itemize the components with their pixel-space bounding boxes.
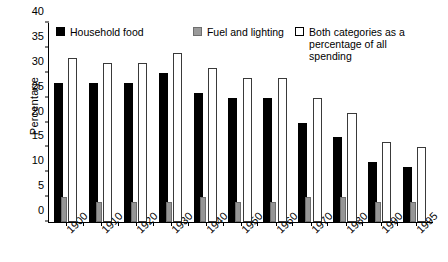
bar-fuel-and-lighting [131, 202, 137, 222]
bar-fuel-and-lighting [340, 197, 346, 222]
bar-both-categories [138, 63, 147, 222]
bar-both-categories [243, 78, 252, 222]
plot-area: 0510152025303540 19001910192019301940195… [48, 23, 433, 223]
bar-group: 1995 [398, 23, 433, 222]
y-tick-label: 15 [32, 129, 49, 141]
bar-fuel-and-lighting [235, 202, 241, 222]
y-tick-label: 35 [32, 30, 49, 42]
y-tick-label: 25 [32, 80, 49, 92]
bar-group: 1910 [84, 23, 119, 222]
bars-wrap: 1910 [84, 23, 119, 222]
bar-household-food [124, 83, 133, 222]
y-tick-label: 20 [32, 105, 49, 117]
bar-fuel-and-lighting [375, 202, 381, 222]
bar-both-categories [173, 53, 182, 222]
bars-wrap: 1960 [258, 23, 293, 222]
bar-fuel-and-lighting [200, 197, 206, 222]
y-tick-label: 0 [38, 204, 49, 216]
bar-household-food [159, 73, 168, 222]
bar-fuel-and-lighting [305, 197, 311, 222]
bar-group: 1900 [49, 23, 84, 222]
bars-wrap: 1980 [328, 23, 363, 222]
bar-both-categories [417, 147, 426, 222]
bar-fuel-and-lighting [410, 202, 416, 222]
bar-fuel-and-lighting [166, 202, 172, 222]
bar-group: 1990 [363, 23, 398, 222]
bar-group: 1940 [189, 23, 224, 222]
bar-both-categories [313, 98, 322, 222]
bar-fuel-and-lighting [61, 197, 67, 222]
bar-group: 1960 [258, 23, 293, 222]
bar-group: 1980 [328, 23, 363, 222]
bar-fuel-and-lighting [270, 202, 276, 222]
bars-wrap: 1995 [398, 23, 433, 222]
bars-wrap: 1940 [189, 23, 224, 222]
bar-groups: 1900191019201930194019501960197019801990… [49, 23, 433, 222]
y-tick-label: 10 [32, 154, 49, 166]
bars-wrap: 1970 [293, 23, 328, 222]
bar-group: 1930 [154, 23, 189, 222]
bar-both-categories [103, 63, 112, 222]
bars-wrap: 1990 [363, 23, 398, 222]
bar-both-categories [278, 78, 287, 222]
bars-wrap: 1900 [49, 23, 84, 222]
bar-group: 1920 [119, 23, 154, 222]
bar-both-categories [68, 58, 77, 222]
y-tick-label: 30 [32, 55, 49, 67]
bars-wrap: 1930 [154, 23, 189, 222]
bar-fuel-and-lighting [96, 202, 102, 222]
y-tick-label: 40 [32, 5, 49, 17]
bar-both-categories [382, 142, 391, 222]
bar-both-categories [208, 68, 217, 222]
bars-wrap: 1920 [119, 23, 154, 222]
bar-chart: Percentage 0510152025303540 190019101920… [0, 0, 448, 262]
bar-group: 1970 [293, 23, 328, 222]
bar-both-categories [347, 113, 356, 222]
y-tick-label: 5 [38, 179, 49, 191]
bar-household-food [89, 83, 98, 222]
bar-group: 1950 [224, 23, 259, 222]
bars-wrap: 1950 [224, 23, 259, 222]
